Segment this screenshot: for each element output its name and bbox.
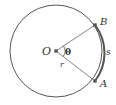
label-theta: θ bbox=[65, 47, 71, 57]
label-B: B bbox=[99, 16, 107, 27]
point-A bbox=[93, 79, 96, 82]
label-O: O bbox=[42, 45, 51, 58]
point-B bbox=[93, 23, 96, 26]
radius-OB bbox=[56, 25, 95, 51]
point-O bbox=[54, 49, 57, 52]
label-s: s bbox=[106, 47, 111, 57]
label-A: A bbox=[99, 78, 107, 89]
circle-arc-diagram: O B A θ r s bbox=[0, 0, 116, 105]
label-r: r bbox=[60, 60, 65, 69]
